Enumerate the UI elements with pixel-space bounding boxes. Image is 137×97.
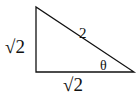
horizontal-leg-label: √2: [63, 74, 83, 95]
vertical-leg-label: √2: [5, 36, 25, 57]
angle-theta-label: θ: [100, 58, 107, 73]
hypotenuse-label: 2: [79, 25, 87, 41]
triangle-diagram: √2 2 θ √2: [0, 0, 137, 97]
